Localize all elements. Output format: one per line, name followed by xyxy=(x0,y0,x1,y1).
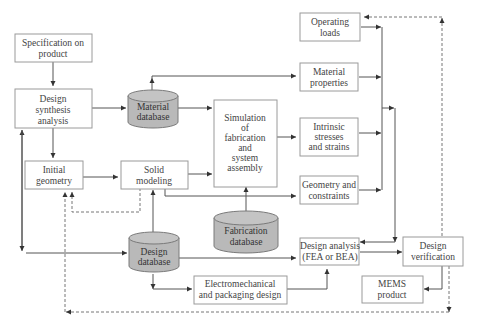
node-label: Design xyxy=(141,247,168,257)
database-fabrication: Fabrication database xyxy=(214,211,278,253)
node-electromechanical: Electromechanical and packaging design xyxy=(194,276,287,304)
node-label: system xyxy=(232,153,259,163)
node-label: fabrication xyxy=(224,133,265,143)
node-simulation: Simulation of fabrication and system ass… xyxy=(214,100,277,187)
node-label: loads xyxy=(320,28,340,38)
node-label: Solid xyxy=(144,165,164,175)
node-label: properties xyxy=(310,78,348,88)
node-label: database xyxy=(230,237,263,247)
node-solid-modeling: Solid modeling xyxy=(121,161,188,189)
node-mems-product: MEMS product xyxy=(362,276,423,303)
node-label: Intrinsic xyxy=(313,122,345,132)
node-label: Design analysis xyxy=(300,241,360,251)
node-label: product xyxy=(377,290,406,300)
node-label: Geometry and xyxy=(302,180,356,190)
node-intrinsic-stresses: Intrinsic stresses and strains xyxy=(300,118,358,156)
node-label: Simulation xyxy=(224,113,266,123)
node-initial-geometry: Initial geometry xyxy=(25,161,83,189)
node-label: Electromechanical xyxy=(205,279,276,289)
database-material: Material database xyxy=(128,90,178,128)
node-label: database xyxy=(137,112,170,122)
node-label: Design xyxy=(420,241,447,251)
node-label: product xyxy=(38,49,67,59)
node-label: Initial xyxy=(43,165,66,175)
node-label: constraints xyxy=(308,191,349,201)
node-label: and packaging design xyxy=(199,290,282,300)
node-label: modeling xyxy=(136,176,172,186)
database-design: Design database xyxy=(129,232,179,272)
node-label: Specification on xyxy=(22,38,84,48)
node-label: Operating xyxy=(311,17,349,27)
design-flow-diagram: Specification on product Design synthesi… xyxy=(0,0,477,327)
node-design-verification: Design verification xyxy=(403,237,463,266)
node-material-properties: Material properties xyxy=(300,63,358,91)
node-label: of xyxy=(241,123,250,133)
node-label: analysis xyxy=(38,116,69,126)
node-specification: Specification on product xyxy=(15,34,92,62)
node-geometry-constraints: Geometry and constraints xyxy=(300,176,358,204)
node-operating-loads: Operating loads xyxy=(300,13,360,41)
node-design-synthesis: Design synthesis analysis xyxy=(15,89,92,128)
node-label: (FEA or BEA) xyxy=(302,252,357,263)
node-label: MEMS xyxy=(378,279,406,289)
node-label: database xyxy=(138,257,171,267)
node-label: assembly xyxy=(227,163,263,173)
node-design-analysis: Design analysis (FEA or BEA) xyxy=(300,238,360,265)
node-label: Fabrication xyxy=(224,226,268,236)
node-label: and xyxy=(238,143,252,153)
node-label: stresses xyxy=(314,132,343,142)
node-label: Material xyxy=(313,67,346,77)
node-label: Design xyxy=(40,94,67,104)
node-label: Material xyxy=(137,102,170,112)
node-label: and strains xyxy=(309,142,350,152)
node-label: synthesis xyxy=(36,105,71,115)
node-label: verification xyxy=(411,252,455,262)
node-label: geometry xyxy=(36,176,72,186)
